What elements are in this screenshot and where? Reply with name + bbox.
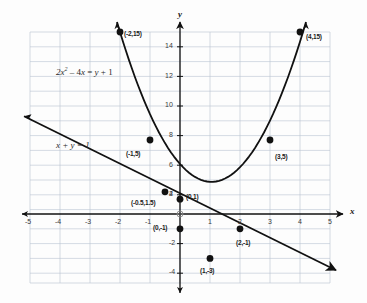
label-point-0-minus1: (0,-1) [153, 224, 167, 231]
x-tick-3: 3 [268, 218, 272, 225]
x-tick-2: 2 [238, 218, 242, 225]
label-point-4-15: (4,15) [306, 33, 322, 40]
y-tick-12: 12 [165, 72, 173, 79]
graph-figure: y x -5 -4 -3 -2 -1 1 2 3 4 5 14 12 10 8 … [0, 0, 367, 303]
x-tick-4: 4 [298, 218, 302, 225]
label-point-minus1-5: (-1,5) [126, 150, 140, 157]
line-equation-label: x + y = 1 [56, 140, 90, 150]
point-minus1-5 [147, 137, 154, 144]
point-minus05-15 [162, 188, 169, 195]
label-point-3-5: (3,5) [275, 153, 287, 160]
coordinate-plane [0, 0, 367, 303]
label-point-0-1: (0,1) [186, 193, 198, 200]
point-2-minus1 [237, 225, 244, 232]
y-axis [177, 22, 183, 293]
point-minus2-15 [117, 29, 124, 36]
y-tick-2-real: 2 [169, 190, 173, 197]
label-point-1-minus3: (1,-3) [200, 267, 214, 274]
eq-term-b: – 4 [68, 67, 82, 77]
y-tick-10: 10 [165, 101, 173, 108]
label-point-minus2-15: (-2,15) [124, 30, 142, 37]
eq-term-d: + 1 [99, 67, 113, 77]
x-tick--3: -3 [85, 218, 91, 225]
x-tick--1: -1 [145, 218, 151, 225]
parabola-equation-label: 2x2 – 4x = y + 1 [56, 66, 113, 77]
label-point-minus05-15: (-0.5,1.5) [131, 199, 155, 206]
point-0-minus1 [177, 225, 184, 232]
y-tick-8: 8 [169, 131, 173, 138]
x-tick--2: -2 [115, 218, 121, 225]
label-point-2-minus1: (2,-1) [236, 239, 250, 246]
x-tick-5: 5 [328, 218, 332, 225]
point-3-5 [267, 137, 274, 144]
x-tick--4: -4 [55, 218, 61, 225]
x-tick--5: -5 [25, 218, 31, 225]
point-0-1 [177, 196, 184, 203]
y-tick-6: 6 [169, 161, 173, 168]
y-tick--4: -4 [169, 268, 175, 275]
x-axis-label: x [350, 206, 355, 216]
eq-equals: = [85, 67, 95, 77]
point-1-minus3 [207, 255, 214, 262]
y-tick-14: 14 [165, 42, 173, 49]
point-4-15 [297, 29, 304, 36]
y-tick--2: -2 [169, 239, 175, 246]
x-tick-1: 1 [208, 218, 212, 225]
y-axis-label: y [178, 9, 182, 19]
